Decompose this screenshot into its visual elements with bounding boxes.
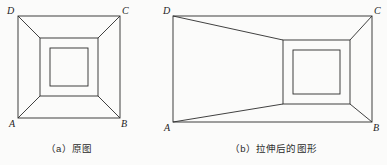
- vertex-label-a-b: A: [164, 123, 170, 133]
- figure-stretched-drawing: [160, 0, 387, 140]
- diagonal-a-bottom-right: [98, 96, 120, 118]
- figure-caption-stretched: （b）拉伸后的图形: [160, 141, 387, 155]
- diagonal-b-top-right: [350, 16, 372, 40]
- figure-caption-original: （a）原图: [0, 141, 138, 155]
- figure-stretched: D C A B （b）拉伸后的图形: [160, 0, 387, 165]
- vertex-label-d-b: D: [163, 6, 170, 16]
- figure-page: D C A B （a）原图 D C A B （b）拉伸: [0, 0, 387, 165]
- vertex-label-a-a: A: [9, 119, 15, 129]
- diagonal-b-bottom-right: [350, 104, 372, 122]
- figure-original-drawing: [0, 0, 175, 140]
- diagonal-b-top-left: [173, 16, 283, 40]
- vertex-label-c-b: C: [374, 6, 381, 16]
- vertex-label-d-a: D: [7, 6, 14, 16]
- vertex-label-c-a: C: [122, 6, 129, 16]
- inner-square-a: [50, 48, 88, 86]
- inner-square-b: [293, 50, 340, 94]
- diagonal-a-top-right: [98, 16, 120, 38]
- diagonal-a-bottom-left: [18, 96, 40, 118]
- diagonal-b-bottom-left: [173, 104, 283, 122]
- vertex-label-b-a: B: [121, 119, 127, 129]
- vertex-label-b-b: B: [373, 123, 379, 133]
- figure-original: D C A B （a）原图: [0, 0, 175, 165]
- middle-square-a: [40, 38, 98, 96]
- diagonal-a-top-left: [18, 16, 40, 38]
